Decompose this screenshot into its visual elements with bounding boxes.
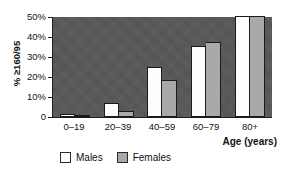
y-tick-label-20: 20% xyxy=(14,72,46,82)
bar-chart: % ≥160/95 50% 40% 30% 20% 10% 0 0–1920–3… xyxy=(0,0,287,175)
bar-group xyxy=(60,17,90,117)
bar-males-20–39 xyxy=(104,103,119,117)
bar-group xyxy=(235,17,265,117)
bar-group xyxy=(191,17,221,117)
bar-males-40–59 xyxy=(147,67,162,118)
y-axis-ticks: 50% 40% 30% 20% 10% 0 xyxy=(14,12,46,119)
bar-groups xyxy=(53,17,272,117)
x-tick-label-80+: 80+ xyxy=(228,121,272,135)
bar-females-80+ xyxy=(250,16,265,117)
x-tick-label-20–39: 20–39 xyxy=(96,121,140,135)
x-axis-title: Age (years) xyxy=(223,136,277,147)
legend-label-males: Males xyxy=(76,152,103,163)
bar-females-40–59 xyxy=(162,80,177,117)
x-tick-label-40–59: 40–59 xyxy=(140,121,184,135)
legend-swatch-males-icon xyxy=(60,152,71,163)
x-tick-label-0–19: 0–19 xyxy=(52,121,96,135)
x-axis-ticks: 0–1920–3940–5960–7980+ xyxy=(52,121,272,135)
y-tick-label-10: 10% xyxy=(14,92,46,102)
plot-area xyxy=(52,17,272,118)
y-tick-label-0: 0 xyxy=(14,112,46,122)
bar-females-0–19 xyxy=(75,115,90,117)
bar-males-80+ xyxy=(235,16,250,117)
legend-item-females: Females xyxy=(117,152,171,163)
chart-legend: Males Females xyxy=(60,152,171,163)
legend-label-females: Females xyxy=(133,152,171,163)
legend-swatch-females-icon xyxy=(117,152,128,163)
x-tick-label-60–79: 60–79 xyxy=(184,121,228,135)
y-tick-label-40: 40% xyxy=(14,32,46,42)
bar-males-0–19 xyxy=(60,114,75,117)
bar-males-60–79 xyxy=(191,46,206,117)
bar-females-60–79 xyxy=(206,42,221,117)
legend-item-males: Males xyxy=(60,152,103,163)
y-tick-label-30: 30% xyxy=(14,52,46,62)
bar-females-20–39 xyxy=(119,111,134,117)
bar-group xyxy=(104,17,134,117)
bar-group xyxy=(147,17,177,117)
y-tick-label-50: 50% xyxy=(14,12,46,22)
